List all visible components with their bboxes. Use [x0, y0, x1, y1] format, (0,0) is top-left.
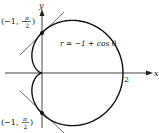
svg-text:): ) — [32, 17, 35, 26]
x-axis-arrow-icon — [146, 71, 153, 76]
svg-text:(−1,: (−1, — [1, 118, 18, 127]
svg-text:): ) — [30, 118, 33, 127]
y-axis-label: y — [38, 1, 44, 10]
bottom-tangent-point — [40, 111, 44, 115]
x-tick-label-2: 2 — [124, 75, 129, 84]
x-axis-label: x — [154, 69, 159, 78]
svg-text:2: 2 — [24, 123, 28, 130]
svg-text:π: π — [22, 115, 28, 122]
svg-text:(−1, −: (−1, − — [1, 17, 28, 26]
cardioid-figure: x 2 y (−1, − π 2 ) (−1, π 2 ) r = −1 + c… — [0, 0, 159, 133]
bottom-point-label: (−1, π 2 ) — [1, 115, 33, 130]
y-axis-arrow-icon — [40, 9, 45, 16]
top-tangent-point — [40, 31, 44, 35]
x-axis: x 2 — [5, 69, 159, 84]
svg-text:π: π — [24, 14, 30, 21]
top-point-label: (−1, − π 2 ) — [1, 14, 35, 29]
equation-label: r = −1 + cos θ — [60, 39, 117, 48]
svg-text:2: 2 — [26, 22, 30, 29]
